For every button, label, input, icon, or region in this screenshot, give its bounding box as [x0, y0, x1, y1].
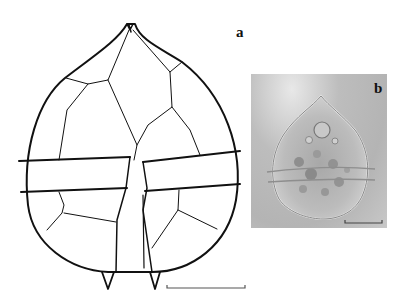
panel-label-a: a	[236, 24, 244, 41]
scale-bar-b	[345, 220, 382, 223]
scale-bar-a	[167, 285, 245, 288]
panel-label-b: b	[374, 80, 382, 97]
micrograph-panel-b	[251, 74, 387, 228]
figure: a b	[0, 0, 403, 305]
